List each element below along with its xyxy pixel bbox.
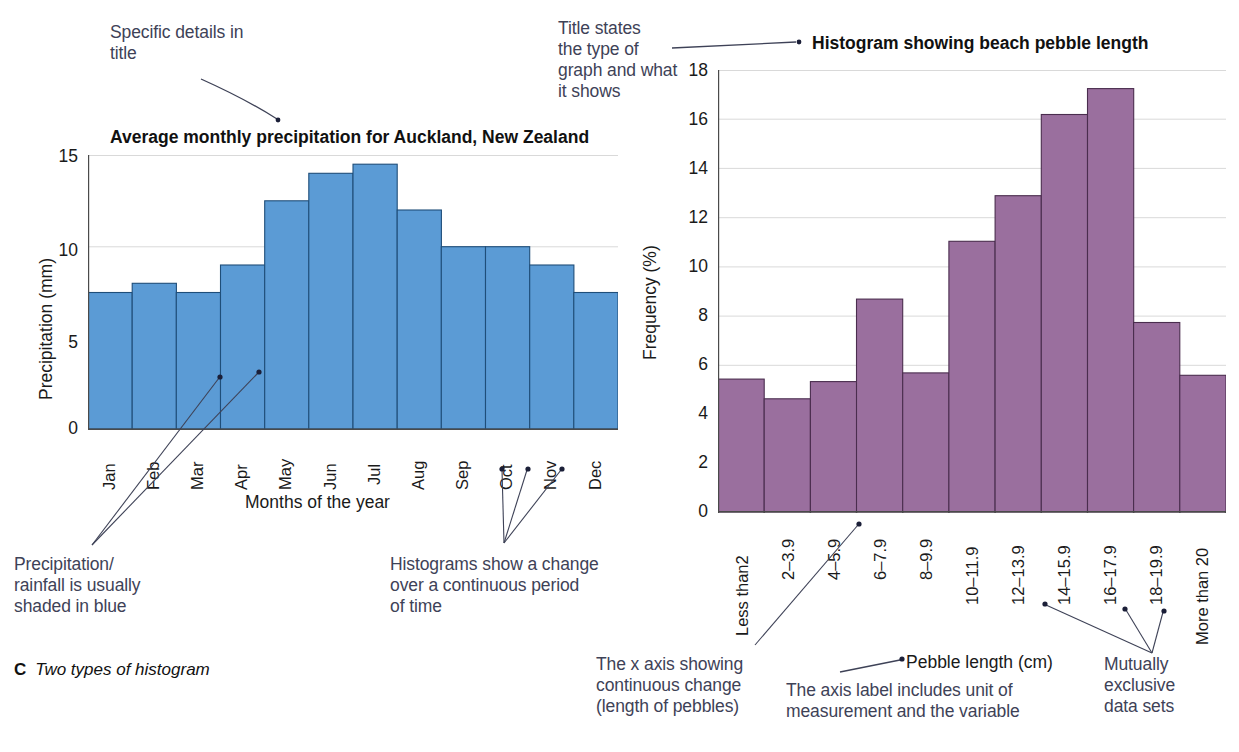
pebble-x-axis-label: Pebble length (cm) [906, 652, 1053, 673]
leader-dot-specific-details [276, 118, 281, 123]
precipitation-xtick-dec: Dec [586, 461, 605, 490]
precipitation-xtick-jan: Jan [100, 463, 119, 490]
pebble-ytick-8: 8 [660, 305, 708, 326]
pebble-ytick-12: 12 [660, 207, 708, 228]
bar-jun [309, 173, 353, 429]
pebble-xtick-less-than-2: Less than2 [733, 555, 752, 636]
leader-dot-mutually-3 [1161, 608, 1166, 613]
bar-feb [132, 283, 176, 429]
annotation-title-states: Title states the type of graph and what … [558, 18, 677, 102]
figure-caption-letter: C [14, 660, 26, 679]
leader-line-mutually-3 [1152, 612, 1163, 653]
precipitation-ytick-10: 10 [34, 240, 78, 261]
bar-dec [574, 293, 618, 430]
bar-less-than-2 [718, 379, 764, 512]
bar-mar [176, 293, 220, 430]
precipitation-xtick-apr: Apr [232, 464, 251, 490]
bar-oct [486, 247, 530, 429]
leader-line-mutually-1 [1046, 605, 1152, 653]
leader-line-title-states [672, 42, 796, 48]
bar-18-19-9 [1134, 323, 1180, 513]
bar-14-15-9 [1041, 115, 1087, 513]
precipitation-ytick-15: 15 [34, 146, 78, 167]
precipitation-xtick-nov: Nov [541, 461, 560, 490]
annotation-axis-label-unit: The axis label includes unit of measurem… [786, 680, 1020, 722]
bar-more-than-20 [1180, 375, 1226, 512]
pebble-xtick-more-than-20: More than 20 [1193, 548, 1212, 645]
precipitation-ytick-0: 0 [34, 418, 78, 439]
leader-dot-mutually-2 [1122, 606, 1127, 611]
precipitation-y-axis-label: Precipitation (mm) [36, 258, 57, 400]
leader-dot-continuous-3 [559, 466, 564, 471]
leader-line-mutually-2 [1126, 610, 1152, 653]
precipitation-xtick-may: May [276, 459, 295, 490]
bar-16-17-9 [1088, 89, 1134, 512]
pebble-ytick-10: 10 [660, 256, 708, 277]
bar-jan [88, 293, 132, 430]
precipitation-ytick-5: 5 [34, 332, 78, 353]
precipitation-chart-title: Average monthly precipitation for Auckla… [110, 127, 589, 148]
pebble-xtick-8-9-9: 8–9.9 [917, 539, 936, 580]
leader-dot-mutually-1 [1042, 601, 1047, 606]
annotation-continuous-period: Histograms show a change over a continuo… [390, 554, 599, 617]
leader-dot-continuous-2 [525, 466, 530, 471]
bar-6-7-9 [857, 299, 903, 512]
bar-may [265, 201, 309, 429]
bar-4-5-9 [810, 382, 856, 512]
bar-10-11-9 [949, 241, 995, 512]
pebble-xtick-6-7-9: 6–7.9 [871, 539, 890, 580]
pebble-xtick-14-15-9: 14–15.9 [1055, 545, 1074, 605]
pebble-ytick-6: 6 [660, 354, 708, 375]
bar-jul [353, 164, 397, 429]
pebble-bars [718, 89, 1226, 512]
bar-apr [221, 265, 265, 429]
bar-aug [397, 210, 441, 429]
leader-line-axis-label-unit [840, 660, 900, 672]
pebble-y-axis-label: Frequency (%) [640, 245, 661, 360]
leader-dot-title-states [797, 40, 802, 45]
annotation-precipitation-blue: Precipitation/ rainfall is usually shade… [14, 554, 141, 617]
annotation-x-axis-continuous: The x axis showing continuous change (le… [596, 654, 743, 717]
figure-page: Average monthly precipitation for Auckla… [0, 0, 1239, 752]
pebble-xtick-12-13-9: 12–13.9 [1009, 545, 1028, 605]
annotation-specific-details: Specific details in title [110, 22, 243, 64]
annotation-mutually-exclusive: Mutually exclusive data sets [1104, 654, 1175, 717]
pebble-xtick-4-5-9: 4–5.9 [825, 539, 844, 580]
precipitation-xtick-jun: Jun [321, 463, 340, 490]
leader-line-specific-details [201, 79, 277, 119]
pebble-ytick-2: 2 [660, 452, 708, 473]
precipitation-plot-area [88, 155, 618, 430]
figure-caption-text: Two types of histogram [35, 660, 209, 679]
precipitation-xtick-mar: Mar [188, 462, 207, 490]
pebble-chart-title: Histogram showing beach pebble length [812, 33, 1148, 54]
precipitation-xtick-aug: Aug [409, 461, 428, 490]
bar-2-3-9 [764, 399, 810, 512]
precipitation-xtick-sep: Sep [453, 461, 472, 490]
bar-12-13-9 [995, 196, 1041, 512]
precipitation-x-axis-label: Months of the year [245, 492, 390, 513]
pebble-ytick-0: 0 [660, 501, 708, 522]
pebble-xtick-2-3-9: 2–3.9 [779, 539, 798, 580]
bar-8-9-9 [903, 373, 949, 512]
pebble-ytick-4: 4 [660, 403, 708, 424]
pebble-xtick-10-11-9: 10–11.9 [963, 547, 982, 605]
pebble-xtick-18-19-9: 18–19.9 [1147, 545, 1166, 605]
pebble-ytick-14: 14 [660, 158, 708, 179]
pebble-plot-area [718, 70, 1226, 513]
bar-sep [441, 247, 485, 429]
precipitation-xtick-feb: Feb [144, 462, 163, 490]
figure-caption: CTwo types of histogram [14, 660, 210, 680]
precipitation-bars [88, 164, 618, 429]
pebble-xtick-16-17-9: 16–17.9 [1101, 545, 1120, 605]
bar-nov [530, 265, 574, 429]
leader-dot-x-axis-continuous [856, 521, 861, 526]
precipitation-xtick-jul: Jul [365, 464, 384, 485]
leader-dot-axis-label-unit [899, 656, 904, 661]
pebble-ytick-16: 16 [660, 109, 708, 130]
precipitation-xtick-oct: Oct [497, 464, 516, 490]
